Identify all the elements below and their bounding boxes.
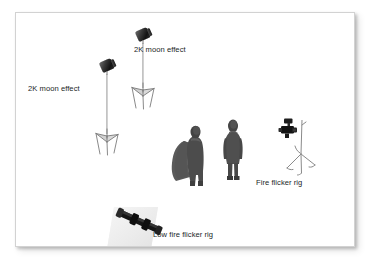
- c-stand-base-icon: [286, 120, 318, 176]
- figure-standing[interactable]: [218, 119, 248, 183]
- diagram-stage: 2K moon effect 2K moon effect Fire flick…: [16, 13, 354, 246]
- light-stand-right[interactable]: [130, 29, 156, 109]
- label-fire-flicker-rig: Fire flicker rig: [256, 178, 302, 188]
- lighting-diagram-frame: 2K moon effect 2K moon effect Fire flick…: [15, 12, 355, 247]
- fire-flicker-rig[interactable]: [278, 118, 318, 176]
- tripod-base-icon: [130, 82, 156, 110]
- label-low-fire-flicker-rig: Low fire flicker rig: [153, 230, 213, 240]
- stand-pole: [106, 74, 107, 134]
- label-2k-moon-effect-left: 2K moon effect: [28, 84, 80, 94]
- light-stand-left[interactable]: [94, 60, 120, 156]
- figure-caped[interactable]: [168, 125, 214, 187]
- label-2k-moon-effect-right: 2K moon effect: [134, 45, 186, 55]
- tripod-base-icon: [94, 128, 120, 156]
